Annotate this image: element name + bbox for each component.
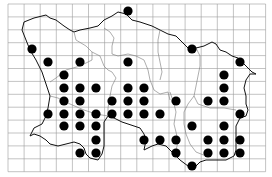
map-canvas (0, 0, 272, 177)
record-dot (75, 121, 84, 130)
record-dot (187, 44, 196, 53)
record-dot (123, 96, 132, 105)
record-dot (27, 44, 36, 53)
record-dot (91, 121, 100, 130)
record-dot (139, 96, 148, 105)
record-dot (91, 148, 100, 157)
record-dot (187, 121, 196, 130)
record-dot (75, 83, 84, 92)
record-dot (59, 83, 68, 92)
record-dot (43, 109, 52, 118)
record-dot (107, 109, 116, 118)
record-dot (91, 135, 100, 144)
record-dot (43, 57, 52, 66)
record-dot (75, 57, 84, 66)
record-dot (235, 148, 244, 157)
record-dot (171, 96, 180, 105)
record-dot (123, 57, 132, 66)
record-dot (187, 161, 196, 170)
record-dot (219, 70, 228, 79)
record-dot (203, 135, 212, 144)
record-dot (235, 135, 244, 144)
record-dot (139, 109, 148, 118)
record-dot (75, 148, 84, 157)
record-dot (235, 109, 244, 118)
record-dot (219, 96, 228, 105)
record-dot (203, 96, 212, 105)
record-dot (235, 57, 244, 66)
record-dot (59, 70, 68, 79)
record-dot (219, 121, 228, 130)
record-dot (91, 83, 100, 92)
record-dot (155, 135, 164, 144)
distribution-map (0, 0, 272, 177)
record-dot (107, 96, 116, 105)
record-dot (171, 148, 180, 157)
record-dot (59, 121, 68, 130)
record-dot (203, 148, 212, 157)
record-dot (123, 83, 132, 92)
record-dot (75, 96, 84, 105)
record-dot (59, 96, 68, 105)
record-dot (123, 109, 132, 118)
record-dot (91, 109, 100, 118)
record-dot (219, 135, 228, 144)
record-dot (139, 83, 148, 92)
record-dot (219, 83, 228, 92)
record-dot (59, 109, 68, 118)
record-dot (75, 109, 84, 118)
record-dot (171, 135, 180, 144)
record-dot (123, 6, 132, 15)
record-dot (139, 135, 148, 144)
record-dot (155, 109, 164, 118)
record-dot (219, 148, 228, 157)
